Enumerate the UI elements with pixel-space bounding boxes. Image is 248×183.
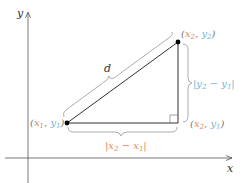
point-p1 [65, 121, 70, 126]
y-axis-label: y [16, 7, 24, 20]
x-axis-label: x [227, 162, 234, 175]
hypotenuse-brace [63, 32, 172, 117]
vertical-distance-label: |y2 − y1| [193, 78, 235, 91]
y-axis [26, 12, 31, 183]
hypotenuse-line [67, 42, 178, 123]
vertical-brace [183, 44, 192, 122]
horizontal-distance-label: |x2 − x1| [105, 140, 147, 153]
horizontal-brace [68, 127, 177, 136]
x-axis [5, 156, 232, 161]
right-angle-mark [170, 115, 178, 123]
right-triangle [67, 42, 178, 123]
point-p2 [176, 40, 181, 45]
point-p2-label: (x2, y2) [181, 28, 216, 41]
point-p1-label: (x1, y1) [30, 117, 65, 130]
braces [63, 32, 192, 136]
corner-point-label: (x2, y1) [190, 118, 225, 131]
distance-label: d [104, 62, 111, 75]
distance-diagram: y x d (x1, y1) (x2, y2) (x2, y1) |y2 − y… [0, 0, 248, 183]
